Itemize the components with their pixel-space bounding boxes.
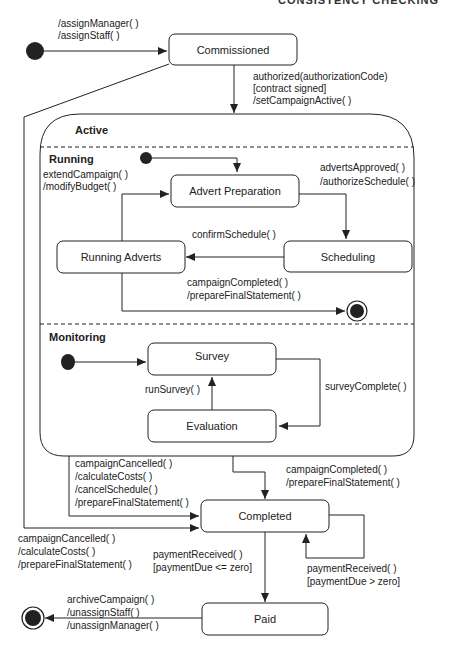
label-commissioned-active: authorized(authorizationCode) [contract … [253,71,390,106]
final-state-running [347,301,367,321]
svg-text:Scheduling: Scheduling [321,251,375,263]
svg-text:Advert Preparation: Advert Preparation [189,185,281,197]
state-diagram: CONSISTENCY CHECKING /assignManager( ) /… [0,0,454,658]
initial-state-monitoring [61,354,75,370]
region-running-label: Running [49,153,94,165]
label-scheduling-running: confirmSchedule( ) [192,229,276,240]
label-completed-paid: paymentReceived( ) [paymentDue <= zero] [153,549,252,573]
svg-text:Active: Active [75,124,108,136]
label-active-complete-completed: campaignCompleted( ) /prepareFinalStatem… [286,464,400,488]
label-paid-final: archiveCampaign( ) /unassignStaff( ) /un… [67,594,159,631]
initial-state [26,42,44,60]
state-survey[interactable]: Survey [148,343,276,375]
label-completed-self: paymentReceived( ) [paymentDue > zero] [307,563,400,587]
state-scheduling[interactable]: Scheduling [284,241,412,272]
svg-text:Completed: Completed [238,510,291,522]
final-state [22,607,44,629]
state-paid[interactable]: Paid [202,603,328,635]
label-initial-commissioned: /assignManager( ) /assignStaff( ) [58,18,141,41]
svg-text:Commissioned: Commissioned [197,44,270,56]
state-commissioned[interactable]: Commissioned [169,34,297,65]
svg-text:Running Adverts: Running Adverts [81,251,162,263]
label-commissioned-cancel-completed: campaignCancelled( ) /calculateCosts( ) … [18,533,132,570]
region-monitoring-label: Monitoring [49,331,106,343]
svg-text:Paid: Paid [254,613,276,625]
transition-active-complete-completed [233,456,265,499]
state-advert-preparation[interactable]: Advert Preparation [171,175,299,207]
label-evaluation-survey: runSurvey( ) [145,384,200,395]
label-survey-evaluation: surveyComplete( ) [325,381,407,392]
state-evaluation[interactable]: Evaluation [148,410,276,442]
state-completed[interactable]: Completed [201,500,329,532]
label-active-cancel-completed: campaignCancelled( ) /calculateCosts( ) … [75,458,189,508]
initial-state-running [140,152,152,164]
svg-text:Evaluation: Evaluation [186,420,237,432]
page-header: CONSISTENCY CHECKING [278,0,439,6]
svg-text:Survey: Survey [195,350,230,362]
state-running-adverts[interactable]: Running Adverts [57,241,185,273]
